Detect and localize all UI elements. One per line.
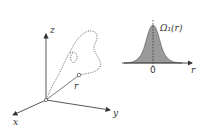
r-axis-label: r [191, 65, 196, 75]
random-walk-loop [70, 52, 77, 63]
origin-zero-label: 0 [150, 65, 156, 75]
y-axis [46, 100, 110, 110]
x-axis [13, 100, 46, 115]
origin-point [44, 98, 47, 101]
coordinate-axes [13, 34, 110, 115]
endpoint-r [77, 73, 81, 77]
position-r-label: r [74, 81, 79, 91]
x-axis-label: x [13, 117, 18, 127]
omega-label: Ω₁(r) [159, 23, 183, 33]
y-axis-label: y [112, 108, 119, 118]
diagram-canvas: z x y r Ω₁(r) 0 r [0, 0, 206, 134]
z-axis-label: z [49, 25, 55, 35]
